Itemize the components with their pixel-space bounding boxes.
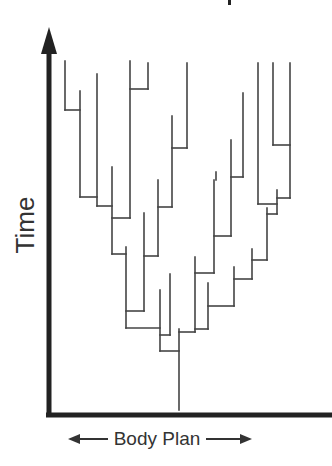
y-axis-arrowhead-icon — [41, 27, 57, 54]
y-axis — [41, 27, 57, 416]
x-axis-label-group: Body Plan — [60, 427, 260, 451]
arrow-left-icon — [68, 433, 108, 445]
tree-branches — [65, 61, 290, 410]
y-axis-label: Time — [10, 190, 40, 260]
arrow-right-icon — [206, 433, 252, 445]
phylogenetic-tree — [0, 0, 332, 466]
x-axis-label: Body Plan — [114, 428, 201, 450]
phylogeny-figure: Time Body Plan — [0, 0, 332, 466]
